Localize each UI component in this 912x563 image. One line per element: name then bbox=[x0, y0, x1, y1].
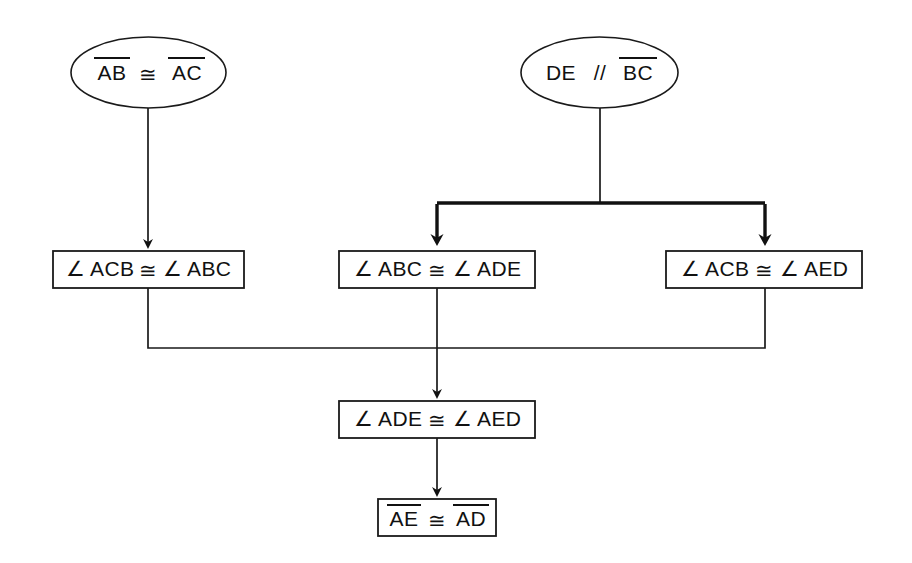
stmt-acb-abc-term-2: ≅ bbox=[139, 259, 157, 282]
stmt-ade-aed-term-1: ∠ ADE bbox=[354, 407, 423, 430]
node-stmt-acb-aed[interactable]: ∠ ACB ≅ ∠ AED bbox=[666, 251, 862, 288]
given-ab-ac-term-2: ≅ bbox=[139, 63, 157, 86]
given-de-bc-term-1: DE bbox=[546, 61, 576, 84]
stmt-abc-ade-term-2: ≅ bbox=[428, 259, 446, 282]
stmt-ade-aed-term-3: ∠ AED bbox=[453, 407, 522, 430]
stmt-acb-abc-term-3: ∠ ABC bbox=[163, 257, 232, 280]
stmt-ae-ad-term-3: AD bbox=[456, 507, 486, 530]
given-de-bc-term-3: BC bbox=[623, 61, 653, 84]
node-stmt-acb-abc[interactable]: ∠ ACB ≅ ∠ ABC bbox=[53, 251, 244, 288]
stmt-abc-ade-term-3: ∠ ADE bbox=[453, 257, 522, 280]
stmt-acb-aed-term-1: ∠ ACB bbox=[681, 257, 750, 280]
stmt-ae-ad-term-1: AE bbox=[390, 507, 419, 530]
node-stmt-abc-ade[interactable]: ∠ ABC ≅ ∠ ADE bbox=[339, 251, 535, 288]
given-ab-ac-term-3: AC bbox=[172, 61, 202, 84]
stmt-acb-abc-term-1: ∠ ACB bbox=[66, 257, 135, 280]
node-given-de-bc[interactable]: DE // BC bbox=[521, 37, 678, 108]
stmt-ae-ad-term-2: ≅ bbox=[428, 509, 446, 532]
stmt-ade-aed-term-2: ≅ bbox=[428, 409, 446, 432]
node-stmt-ade-aed[interactable]: ∠ ADE ≅ ∠ AED bbox=[339, 401, 535, 438]
flowchart-svg: AB ≅ AC DE // BC ∠ ACB ≅ ∠ ABC ∠ ABC ≅ ∠… bbox=[0, 0, 912, 563]
stmt-acb-aed-term-2: ≅ bbox=[755, 259, 773, 282]
diagram-canvas: AB ≅ AC DE // BC ∠ ACB ≅ ∠ ABC ∠ ABC ≅ ∠… bbox=[0, 0, 912, 563]
given-ab-ac-term-1: AB bbox=[98, 61, 127, 84]
edge-stmt-acb-abc-to-merge bbox=[148, 288, 437, 348]
edge-stmt-acb-aed-to-merge bbox=[437, 288, 765, 348]
stmt-abc-ade-term-1: ∠ ABC bbox=[354, 257, 423, 280]
node-stmt-ae-ad[interactable]: AE ≅ AD bbox=[378, 499, 496, 536]
stmt-acb-aed-term-3: ∠ AED bbox=[780, 257, 849, 280]
node-given-ab-ac[interactable]: AB ≅ AC bbox=[71, 37, 226, 108]
given-de-bc-term-2: // bbox=[594, 61, 606, 84]
